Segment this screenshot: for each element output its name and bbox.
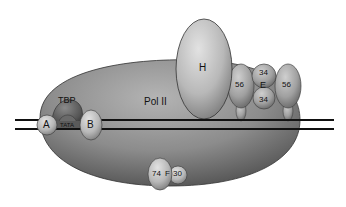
tfiif-30-label: 30 xyxy=(173,170,182,178)
tata-label: TATA xyxy=(60,122,74,128)
tfiih-label: H xyxy=(199,63,206,73)
tfiif-label: F xyxy=(165,170,170,178)
pol2-label: Pol II xyxy=(144,97,167,107)
tfiib-label: B xyxy=(87,120,94,130)
tfiie-34-top-label: 34 xyxy=(259,69,268,77)
tbp-label: TBP xyxy=(58,96,76,105)
tfiie-label: E xyxy=(260,81,266,90)
tfiie-56-left-label: 56 xyxy=(235,81,244,89)
tfiia-label: A xyxy=(43,120,50,130)
tfiie-56-right-label: 56 xyxy=(282,81,291,89)
pic-diagram: Pol II H TBP TATA A B 56 56 34 34 E 74 F… xyxy=(0,0,346,207)
tfiif-74-label: 74 xyxy=(152,170,161,178)
tfiie-34-bottom-label: 34 xyxy=(259,96,268,104)
